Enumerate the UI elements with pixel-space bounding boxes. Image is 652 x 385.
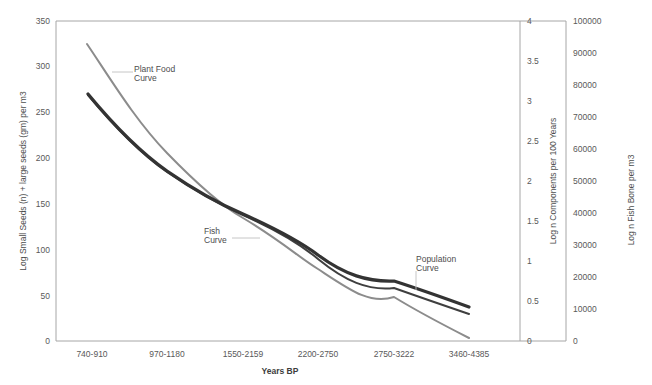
- right-inner-tick-label: 3: [527, 96, 532, 106]
- right-inner-axis-ticks: 4 3.5 3 2.5 2 1.5 1 0.5 0: [527, 16, 539, 346]
- x-tick-label: 2750-3222: [374, 349, 415, 359]
- right-outer-tick-label: 20000: [573, 272, 597, 282]
- population-label-line2: Curve: [416, 263, 439, 273]
- right-outer-tick-label: 10000: [573, 304, 597, 314]
- right-outer-tick-label: 40000: [573, 208, 597, 218]
- right-outer-tick-label: 0: [573, 336, 578, 346]
- left-tick-label: 50: [41, 291, 51, 301]
- plant-food-curve-annotation: Plant Food Curve: [134, 64, 175, 83]
- right-inner-tick-label: 1.5: [527, 216, 539, 226]
- right-inner-tick-label: 2.5: [527, 136, 539, 146]
- population-curve: [88, 94, 469, 307]
- right-inner-tick-label: 0: [527, 336, 532, 346]
- right-inner-tick-label: 2: [527, 176, 532, 186]
- x-tick-label: 2200-2750: [298, 349, 339, 359]
- right-outer-tick-label: 50000: [573, 176, 597, 186]
- right-outer-tick-label: 100000: [573, 16, 602, 26]
- x-tick-label: 3460-4385: [449, 349, 490, 359]
- right-outer-tick-label: 70000: [573, 112, 597, 122]
- left-tick-label: 350: [36, 16, 50, 26]
- fish-curve-annotation: Fish Curve: [204, 226, 227, 245]
- x-tick-label: 970-1180: [149, 349, 185, 359]
- x-axis-ticks: 740-910 970-1180 1550-2159 2200-2750 275…: [76, 349, 489, 359]
- left-axis-title: Log Small Seeds (n) + large seeds (gm) p…: [18, 91, 28, 271]
- right-inner-tick-label: 3.5: [527, 56, 539, 66]
- right-outer-tick-label: 30000: [573, 240, 597, 250]
- right-outer-tick-label: 90000: [573, 48, 597, 58]
- left-tick-label: 150: [36, 199, 50, 209]
- x-axis-title: Years BP: [262, 366, 299, 376]
- fish-label-line2: Curve: [204, 235, 227, 245]
- right-outer-axis-ticks: 100000 90000 80000 70000 60000 50000 400…: [573, 16, 602, 346]
- right-inner-tick-label: 1: [527, 256, 532, 266]
- right-outer-axis-title: Log n Fish Bone per m3: [626, 154, 636, 245]
- left-tick-label: 200: [36, 153, 50, 163]
- right-inner-tick-label: 0.5: [527, 296, 539, 306]
- x-tick-label: 740-910: [76, 349, 107, 359]
- chart-canvas: 350 300 250 200 150 100 50 0 Log Small S…: [0, 0, 652, 385]
- chart-container: 350 300 250 200 150 100 50 0 Log Small S…: [0, 0, 652, 385]
- left-tick-label: 100: [36, 245, 50, 255]
- right-outer-tick-label: 80000: [573, 80, 597, 90]
- x-tick-label: 1550-2159: [223, 349, 264, 359]
- left-tick-label: 250: [36, 107, 50, 117]
- right-inner-axis-title: Log n Components per 100 Years: [548, 118, 558, 245]
- population-curve-annotation: Population Curve: [416, 254, 456, 273]
- left-axis-ticks: 350 300 250 200 150 100 50 0: [36, 16, 50, 346]
- plant-food-label-line2: Curve: [134, 73, 157, 83]
- right-outer-tick-label: 60000: [573, 144, 597, 154]
- left-tick-label: 300: [36, 61, 50, 71]
- left-tick-label: 0: [45, 336, 50, 346]
- right-inner-tick-label: 4: [527, 16, 532, 26]
